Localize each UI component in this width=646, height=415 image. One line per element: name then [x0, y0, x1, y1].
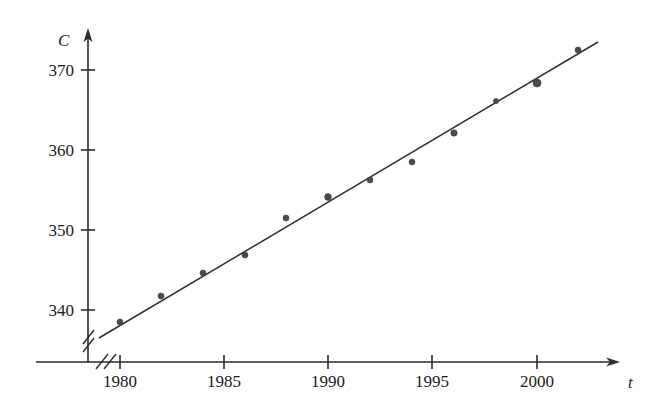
y-tick-label-340: 340	[49, 301, 75, 320]
data-point	[451, 130, 457, 136]
data-point	[283, 215, 289, 221]
scatter-chart: 370 360 350 340 1980 1985 1990 1995 2000	[0, 0, 646, 415]
x-tick-label-1985: 1985	[207, 372, 241, 391]
y-tick-label-350: 350	[49, 221, 75, 240]
data-point-group	[117, 47, 581, 325]
x-tick-label-1980: 1980	[103, 372, 137, 391]
x-tick-label-1990: 1990	[311, 372, 345, 391]
y-tick-label-370: 370	[49, 61, 75, 80]
data-point	[200, 270, 206, 276]
data-point	[409, 159, 415, 165]
y-axis-tick-labels: 370 360 350 340	[49, 61, 75, 320]
data-point	[367, 177, 373, 183]
data-point	[325, 194, 332, 201]
x-tick-label-2000: 2000	[520, 372, 554, 391]
trend-line	[99, 42, 598, 338]
data-point	[533, 79, 541, 87]
data-point	[242, 252, 248, 258]
y-tick-label-360: 360	[49, 141, 75, 160]
x-axis-tick-labels: 1980 1985 1990 1995 2000	[103, 372, 554, 391]
x-tick-label-1995: 1995	[415, 372, 449, 391]
chart-canvas: 370 360 350 340 1980 1985 1990 1995 2000	[0, 0, 646, 415]
x-axis-title: t	[628, 373, 634, 392]
data-point	[117, 319, 123, 325]
data-point	[158, 293, 164, 299]
y-axis	[84, 28, 93, 363]
data-point	[575, 47, 581, 53]
y-axis-title: C	[58, 31, 70, 50]
data-point	[493, 98, 498, 103]
